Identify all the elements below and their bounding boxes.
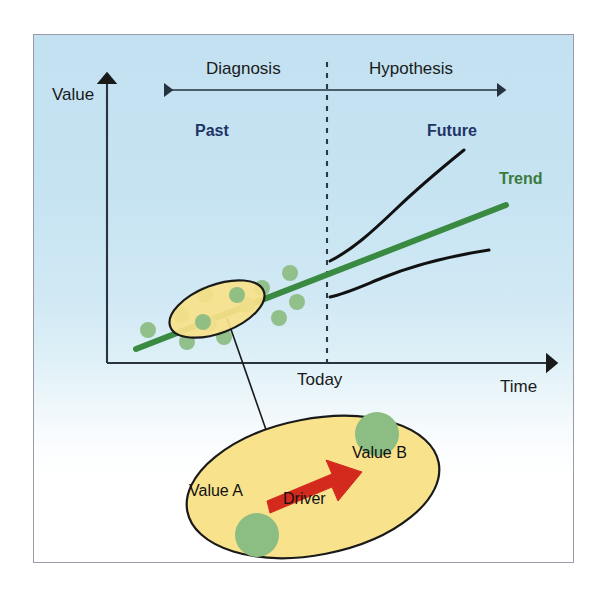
today-label: Today — [297, 371, 342, 388]
future-label: Future — [427, 123, 477, 139]
highlight-dot-lower — [195, 314, 211, 330]
y-axis-label: Value — [52, 86, 94, 103]
diagram-page: Value Time Today Diagnosis Hypothesis Pa… — [0, 0, 603, 589]
diagnosis-label: Diagnosis — [206, 60, 281, 77]
scatter-dot — [271, 310, 287, 326]
callout-leader-line — [227, 318, 271, 444]
trend-label: Trend — [499, 171, 543, 187]
scatter-dot — [289, 294, 305, 310]
highlight-dot-upper — [229, 287, 245, 303]
value-b-label: Value B — [352, 445, 407, 461]
driver-label: Driver — [283, 491, 326, 507]
hypothesis-label: Hypothesis — [369, 60, 453, 77]
future-lower-curve — [330, 250, 489, 297]
scatter-dot — [140, 322, 156, 338]
value-a-label: Value A — [189, 483, 243, 499]
past-label: Past — [195, 123, 229, 139]
scatter-dot — [282, 265, 298, 281]
callout-dot-value-a — [235, 513, 279, 557]
x-axis-label: Time — [500, 378, 537, 395]
